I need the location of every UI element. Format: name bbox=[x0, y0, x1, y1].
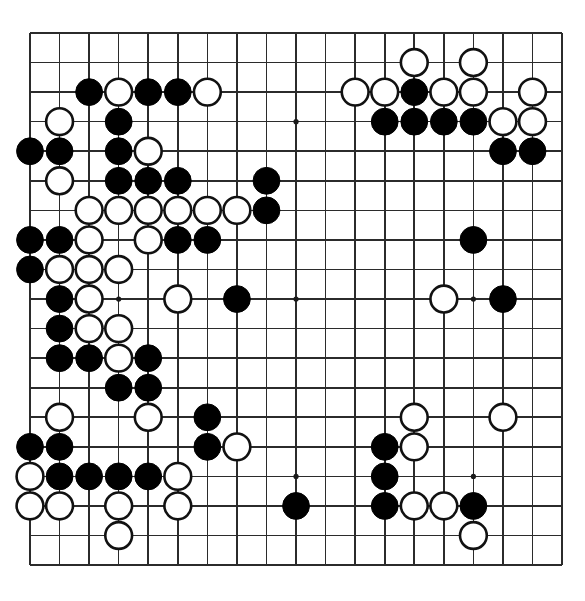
white-stone[interactable] bbox=[105, 493, 132, 520]
go-board[interactable] bbox=[0, 0, 585, 601]
white-stone[interactable] bbox=[430, 79, 457, 106]
black-stone[interactable] bbox=[253, 167, 280, 194]
black-stone[interactable] bbox=[46, 463, 73, 490]
white-stone[interactable] bbox=[135, 404, 162, 431]
white-stone[interactable] bbox=[135, 227, 162, 254]
white-stone[interactable] bbox=[105, 256, 132, 283]
black-stone[interactable] bbox=[105, 374, 132, 401]
black-stone[interactable] bbox=[371, 433, 398, 460]
white-stone[interactable] bbox=[401, 404, 428, 431]
black-stone[interactable] bbox=[164, 79, 191, 106]
white-stone[interactable] bbox=[490, 404, 517, 431]
white-stone[interactable] bbox=[17, 493, 44, 520]
black-stone[interactable] bbox=[105, 138, 132, 165]
black-stone[interactable] bbox=[76, 463, 103, 490]
white-stone[interactable] bbox=[401, 493, 428, 520]
black-stone[interactable] bbox=[401, 108, 428, 135]
white-stone[interactable] bbox=[430, 286, 457, 313]
black-stone[interactable] bbox=[46, 138, 73, 165]
white-stone[interactable] bbox=[164, 286, 191, 313]
star-point bbox=[293, 119, 298, 124]
black-stone[interactable] bbox=[105, 108, 132, 135]
black-stone[interactable] bbox=[371, 493, 398, 520]
white-stone[interactable] bbox=[46, 167, 73, 194]
white-stone[interactable] bbox=[224, 433, 251, 460]
white-stone[interactable] bbox=[342, 79, 369, 106]
black-stone[interactable] bbox=[17, 227, 44, 254]
white-stone[interactable] bbox=[371, 79, 398, 106]
black-stone[interactable] bbox=[135, 167, 162, 194]
white-stone[interactable] bbox=[224, 197, 251, 224]
black-stone[interactable] bbox=[283, 493, 310, 520]
black-stone[interactable] bbox=[460, 493, 487, 520]
white-stone[interactable] bbox=[46, 256, 73, 283]
white-stone[interactable] bbox=[460, 49, 487, 76]
black-stone[interactable] bbox=[135, 345, 162, 372]
white-stone[interactable] bbox=[46, 493, 73, 520]
black-stone[interactable] bbox=[253, 197, 280, 224]
go-board-canvas[interactable] bbox=[0, 0, 585, 601]
black-stone[interactable] bbox=[194, 227, 221, 254]
black-stone[interactable] bbox=[194, 433, 221, 460]
white-stone[interactable] bbox=[76, 315, 103, 342]
white-stone[interactable] bbox=[105, 345, 132, 372]
black-stone[interactable] bbox=[46, 433, 73, 460]
white-stone[interactable] bbox=[164, 463, 191, 490]
black-stone[interactable] bbox=[17, 433, 44, 460]
white-stone[interactable] bbox=[76, 286, 103, 313]
white-stone[interactable] bbox=[105, 79, 132, 106]
black-stone[interactable] bbox=[76, 79, 103, 106]
black-stone[interactable] bbox=[135, 463, 162, 490]
white-stone[interactable] bbox=[460, 79, 487, 106]
star-point bbox=[293, 296, 298, 301]
black-stone[interactable] bbox=[17, 138, 44, 165]
white-stone[interactable] bbox=[105, 197, 132, 224]
white-stone[interactable] bbox=[430, 493, 457, 520]
white-stone[interactable] bbox=[519, 79, 546, 106]
white-stone[interactable] bbox=[519, 108, 546, 135]
black-stone[interactable] bbox=[460, 108, 487, 135]
black-stone[interactable] bbox=[17, 256, 44, 283]
white-stone[interactable] bbox=[76, 197, 103, 224]
black-stone[interactable] bbox=[490, 286, 517, 313]
black-stone[interactable] bbox=[135, 79, 162, 106]
white-stone[interactable] bbox=[164, 493, 191, 520]
black-stone[interactable] bbox=[46, 345, 73, 372]
white-stone[interactable] bbox=[76, 256, 103, 283]
black-stone[interactable] bbox=[46, 227, 73, 254]
screenshot-root bbox=[0, 0, 585, 601]
white-stone[interactable] bbox=[194, 79, 221, 106]
white-stone[interactable] bbox=[17, 463, 44, 490]
black-stone[interactable] bbox=[401, 79, 428, 106]
white-stone[interactable] bbox=[401, 49, 428, 76]
white-stone[interactable] bbox=[164, 197, 191, 224]
black-stone[interactable] bbox=[105, 167, 132, 194]
black-stone[interactable] bbox=[46, 315, 73, 342]
black-stone[interactable] bbox=[164, 227, 191, 254]
black-stone[interactable] bbox=[76, 345, 103, 372]
white-stone[interactable] bbox=[46, 404, 73, 431]
white-stone[interactable] bbox=[105, 315, 132, 342]
black-stone[interactable] bbox=[490, 138, 517, 165]
black-stone[interactable] bbox=[135, 374, 162, 401]
black-stone[interactable] bbox=[194, 404, 221, 431]
white-stone[interactable] bbox=[76, 227, 103, 254]
white-stone[interactable] bbox=[490, 108, 517, 135]
white-stone[interactable] bbox=[105, 522, 132, 549]
black-stone[interactable] bbox=[371, 108, 398, 135]
black-stone[interactable] bbox=[460, 227, 487, 254]
white-stone[interactable] bbox=[460, 522, 487, 549]
black-stone[interactable] bbox=[519, 138, 546, 165]
white-stone[interactable] bbox=[401, 433, 428, 460]
white-stone[interactable] bbox=[194, 197, 221, 224]
black-stone[interactable] bbox=[371, 463, 398, 490]
star-point bbox=[471, 474, 476, 479]
black-stone[interactable] bbox=[105, 463, 132, 490]
black-stone[interactable] bbox=[164, 167, 191, 194]
black-stone[interactable] bbox=[46, 286, 73, 313]
white-stone[interactable] bbox=[135, 197, 162, 224]
black-stone[interactable] bbox=[224, 286, 251, 313]
white-stone[interactable] bbox=[46, 108, 73, 135]
black-stone[interactable] bbox=[430, 108, 457, 135]
white-stone[interactable] bbox=[135, 138, 162, 165]
